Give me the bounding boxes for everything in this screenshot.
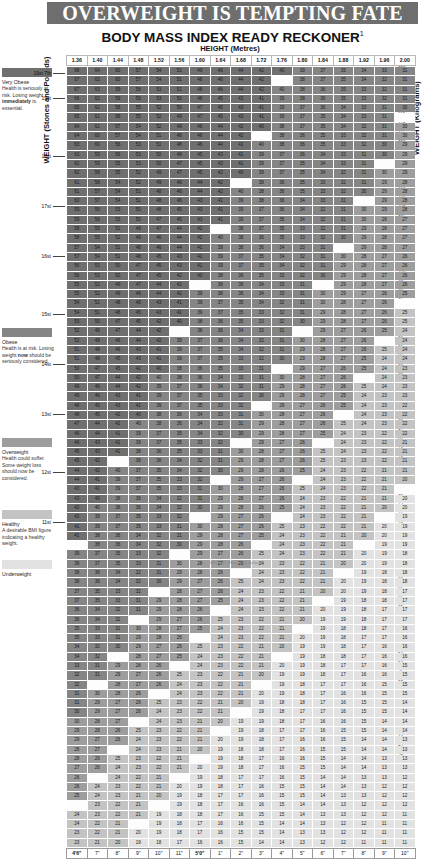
bmi-cell: 40 <box>108 466 129 475</box>
bmi-cell: 29 <box>272 383 293 392</box>
bmi-cell: 14 <box>292 810 313 819</box>
bmi-grid-row: 6157545148464442403836353332302928 <box>67 187 416 196</box>
height-metres-header-cell: 1.92 <box>354 56 375 66</box>
bmi-cell: 25 <box>333 392 354 401</box>
bmi-cell: 27 <box>374 271 395 280</box>
bmi-cell: 23 <box>292 531 313 540</box>
height-metres-header-cell: 1.40 <box>87 56 108 66</box>
bmi-grid-row: 6158545249464442403836353332312928 <box>67 178 416 187</box>
bmi-cell: 46 <box>108 345 129 354</box>
bmi-cell: 23 <box>67 829 88 838</box>
bmi-cell: 22 <box>231 643 252 652</box>
bmi-cell: 30 <box>169 550 190 559</box>
bmi-cell: 31 <box>87 671 108 680</box>
bmi-cell: 21 <box>169 754 190 763</box>
bmi-cell: 31 <box>87 662 108 671</box>
bmi-cell: 15 <box>251 820 272 829</box>
bmi-cell: 22 <box>190 708 211 717</box>
bmi-cell: 25 <box>210 606 231 615</box>
bmi-cell: 20 <box>169 773 190 782</box>
bmi-grid-row: 6258555249474542403937353432313029 <box>67 169 416 178</box>
bmi-cell: 26 <box>292 438 313 447</box>
bmi-cell: 24 <box>87 792 108 801</box>
bmi-cell: 22 <box>313 522 334 531</box>
bmi-cell: 13 <box>313 829 334 838</box>
bmi-cell: 31 <box>128 606 149 615</box>
bmi-cell: 37 <box>108 513 129 522</box>
bmi-cell: 25 <box>108 754 129 763</box>
bmi-cell: 30 <box>354 206 375 215</box>
bmi-cell: 18 <box>169 829 190 838</box>
bmi-cell: 35 <box>272 215 293 224</box>
bmi-cell: 39 <box>251 159 272 168</box>
bmi-cell: 55 <box>67 290 88 299</box>
height-metres-header-cell: 1.96 <box>374 56 395 66</box>
bmi-cell: 20 <box>128 829 149 838</box>
bmi-cell: 51 <box>169 76 190 85</box>
tick-rule <box>53 206 65 207</box>
bmi-cell: 39 <box>169 336 190 345</box>
bmi-cell: 24 <box>374 383 395 392</box>
bmi-cell: 24 <box>354 401 375 410</box>
bmi-cell: 27 <box>108 717 129 726</box>
bmi-cell: 44 <box>67 466 88 475</box>
bmi-cell: 23 <box>149 745 170 754</box>
bmi-cell: 38 <box>190 327 211 336</box>
legend-item-healthy: HealthyA desirable BMI figure indicating… <box>2 510 56 547</box>
bmi-cell: 45 <box>108 364 129 373</box>
bmi-cell: 38 <box>169 364 190 373</box>
bmi-cell: 17 <box>210 810 231 819</box>
bmi-cell: 37 <box>67 587 88 596</box>
bmi-cell: 56 <box>87 215 108 224</box>
bmi-cell: 23 <box>87 810 108 819</box>
bmi-cell: 30 <box>190 513 211 522</box>
bmi-cell: 21 <box>272 615 293 624</box>
bmi-cell: 53 <box>149 94 170 103</box>
bmi-cell: 24 <box>169 689 190 698</box>
bmi-cell: 32 <box>292 271 313 280</box>
bmi-cell: 24 <box>272 541 293 550</box>
bmi-cell: 24 <box>354 392 375 401</box>
bmi-cell: 41 <box>251 104 272 113</box>
bmi-cell: 50 <box>149 159 170 168</box>
bmi-cell: 19 <box>313 643 334 652</box>
bmi-cell: 30 <box>190 503 211 512</box>
bmi-cell: 45 <box>210 113 231 122</box>
bmi-cell: 37 <box>292 113 313 122</box>
bmi-cell: 35 <box>313 122 334 131</box>
bmi-cell: 34 <box>128 541 149 550</box>
bmi-cell: 21 <box>190 736 211 745</box>
bmi-cell: 15 <box>313 764 334 773</box>
bmi-cell: 17 <box>395 606 416 615</box>
bmi-cell: 33 <box>313 197 334 206</box>
bmi-cell: 38 <box>67 569 88 578</box>
bmi-cell: 25 <box>374 345 395 354</box>
bmi-grid-row: 5350474542403836353332302928272625 <box>67 318 416 327</box>
bmi-cell: 15 <box>251 829 272 838</box>
bmi-cell: 45 <box>210 104 231 113</box>
bmi-cell: 44 <box>231 85 252 94</box>
bmi-cell: 43 <box>128 355 149 364</box>
bmi-cell: 18 <box>231 764 252 773</box>
bmi-cell: 15 <box>354 699 375 708</box>
bmi-cell: 33 <box>67 662 88 671</box>
bmi-cell: 15 <box>272 810 293 819</box>
height-feet-inches-cell: 4" <box>272 848 293 858</box>
bmi-cell: 28 <box>354 252 375 261</box>
bmi-cell: 28 <box>251 466 272 475</box>
bmi-cell: 19 <box>190 773 211 782</box>
bmi-cell: 29 <box>149 596 170 605</box>
bmi-cell: 20 <box>272 662 293 671</box>
bmi-grid-row: 4845424038363433313028272625242322 <box>67 410 416 419</box>
bmi-cell: 58 <box>108 104 129 113</box>
bmi-cell: 35 <box>190 401 211 410</box>
bmi-cell: 35 <box>128 513 149 522</box>
bmi-cell: 30 <box>149 578 170 587</box>
bmi-cell: 34 <box>333 104 354 113</box>
bmi-cell: 27 <box>333 327 354 336</box>
bmi-cell: 48 <box>169 132 190 141</box>
bmi-cell: 43 <box>210 150 231 159</box>
bmi-cell: 26 <box>374 290 395 299</box>
bmi-cell: 28 <box>292 383 313 392</box>
bmi-cell: 19 <box>292 662 313 671</box>
